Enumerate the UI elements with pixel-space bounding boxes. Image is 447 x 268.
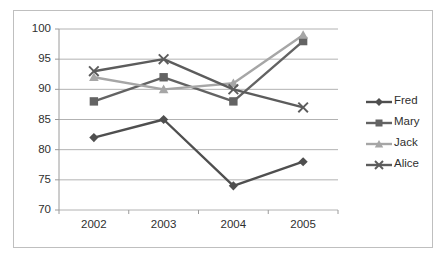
chart-frame: Fred Mary Jack	[13, 10, 433, 248]
legend-label-mary: Mary	[392, 115, 420, 127]
legend-item-mary[interactable]: Mary	[366, 110, 446, 131]
y-axis-tick-85: 85	[14, 113, 51, 125]
y-axis-tick-90: 90	[14, 82, 51, 94]
x-axis-tick-2003: 2003	[134, 218, 194, 230]
y-axis-tick-95: 95	[14, 52, 51, 64]
legend-marker-x-icon	[366, 157, 392, 169]
legend-marker-triangle-icon	[366, 136, 392, 148]
y-axis-tick-70: 70	[14, 203, 51, 215]
y-axis-tick-80: 80	[14, 143, 51, 155]
y-axis-tick-75: 75	[14, 173, 51, 185]
legend-label-fred: Fred	[392, 94, 418, 106]
legend-marker-diamond-icon	[366, 94, 392, 106]
legend-label-alice: Alice	[392, 157, 419, 169]
x-axis-tick-2002: 2002	[64, 218, 124, 230]
legend-item-fred[interactable]: Fred	[366, 89, 446, 110]
legend-item-alice[interactable]: Alice	[366, 152, 446, 173]
legend-item-jack[interactable]: Jack	[366, 131, 446, 152]
x-axis-tick-2005: 2005	[273, 218, 333, 230]
chart-container: Fred Mary Jack	[0, 0, 447, 268]
x-axis-tick-2004: 2004	[203, 218, 263, 230]
legend-marker-square-icon	[366, 115, 392, 127]
y-axis-tick-100: 100	[14, 22, 51, 34]
chart-legend: Fred Mary Jack	[366, 89, 446, 173]
legend-label-jack: Jack	[392, 136, 418, 148]
